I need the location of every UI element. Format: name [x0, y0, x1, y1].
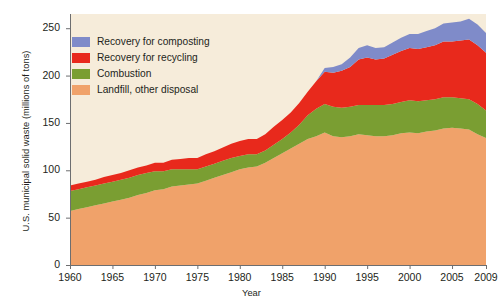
- legend-swatch-icon-0: [72, 37, 90, 47]
- legend-swatch-icon-2: [72, 69, 90, 79]
- y-tick-label-5: 250: [16, 22, 60, 33]
- x-tick-label-2: 1970: [132, 272, 178, 283]
- legend-label-3: Landfill, other disposal: [97, 84, 198, 96]
- x-tick-label-0: 1960: [47, 272, 93, 283]
- y-tick-label-3: 150: [16, 117, 60, 128]
- chart-figure: U.S. municipal solid waste (millions of …: [0, 0, 503, 307]
- y-tick-label-0: 0: [16, 259, 60, 270]
- x-tick-label-6: 1990: [302, 272, 348, 283]
- x-tick-label-10: 2009: [463, 272, 503, 283]
- legend-label-0: Recovery for composting: [97, 36, 210, 48]
- legend-swatch-icon-1: [72, 53, 90, 63]
- x-tick-label-3: 1975: [174, 272, 220, 283]
- x-tick-label-5: 1985: [259, 272, 305, 283]
- x-tick-label-8: 2000: [387, 272, 433, 283]
- y-tick-label-4: 200: [16, 70, 60, 81]
- x-axis-title: Year: [0, 288, 503, 298]
- legend-label-1: Recovery for recycling: [97, 52, 198, 64]
- x-tick-label-7: 1995: [344, 272, 390, 283]
- y-tick-label-1: 50: [16, 212, 60, 223]
- y-tick-label-2: 100: [16, 164, 60, 175]
- legend-label-2: Combustion: [97, 68, 151, 80]
- x-tick-label-1: 1965: [89, 272, 135, 283]
- y-axis-title: U.S. municipal solid waste (millions of …: [21, 11, 31, 271]
- legend-swatch-icon-3: [72, 85, 90, 95]
- x-tick-label-4: 1980: [217, 272, 263, 283]
